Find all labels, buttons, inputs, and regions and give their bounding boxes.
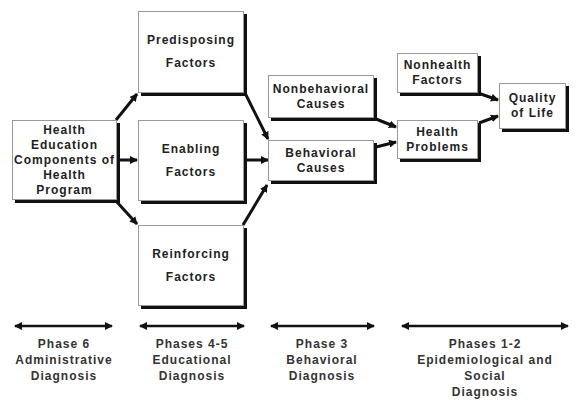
- phase-6-label: Phase 6 Administrative Diagnosis: [6, 336, 122, 384]
- behavioral-causes-box: Behavioral Causes: [268, 140, 374, 181]
- nonhealth-factors-box: Nonhealth Factors: [397, 53, 478, 93]
- edge-health-ed-to-reinforcing: [116, 201, 137, 224]
- edge-behavioral-to-health-problems: [376, 142, 396, 147]
- edge-health-ed-to-predisposing: [116, 94, 137, 120]
- edge-health-problems-to-quality: [479, 116, 498, 123]
- edge-nonbehavioral-to-health-problems: [376, 119, 396, 127]
- predisposing-factors-box: Predisposing Factors: [138, 11, 244, 93]
- edge-reinforcing-to-behavioral: [243, 185, 267, 225]
- quality-of-life-box: Quality of Life: [499, 83, 566, 129]
- nonbehavioral-causes-box: Nonbehavioral Causes: [268, 75, 374, 118]
- phase-3-label: Phase 3 Behavioral Diagnosis: [264, 336, 380, 384]
- health-education-box: Health Education Components of Health Pr…: [12, 120, 117, 200]
- enabling-factors-box: Enabling Factors: [138, 120, 244, 201]
- edge-predisposing-to-behavioral: [245, 93, 268, 139]
- phase-1-2-label: Phases 1-2 Epidemiological and Social Di…: [398, 336, 572, 400]
- health-problems-box: Health Problems: [397, 120, 478, 159]
- phase-4-5-label: Phases 4-5 Educational Diagnosis: [134, 336, 250, 384]
- reinforcing-factors-box: Reinforcing Factors: [138, 225, 244, 306]
- edge-nonhealth-to-quality: [478, 93, 498, 100]
